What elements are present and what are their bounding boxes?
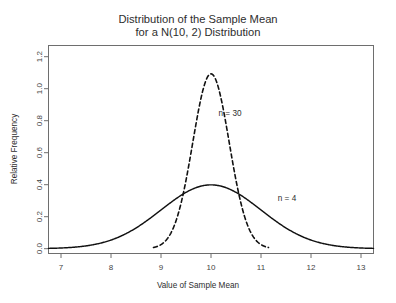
y-tick-label: 1.2 (36, 51, 45, 63)
y-tick-label: 0.0 (36, 243, 45, 255)
x-axis-title: Value of Sample Mean (157, 281, 240, 290)
x-tick-label: 10 (207, 263, 216, 272)
y-tick-label: 0.2 (36, 211, 45, 223)
plot-frame (49, 46, 374, 254)
curve-label-n-4: n = 4 (278, 194, 297, 203)
x-tick-label: 9 (159, 263, 164, 272)
curves-group (49, 74, 374, 249)
chart-title-line-2: for a N(10, 2) Distribution (136, 26, 261, 38)
x-tick-label: 11 (257, 263, 266, 272)
y-tick-label: 1.0 (36, 83, 45, 95)
curve-n-30 (154, 74, 269, 248)
distribution-plot: Distribution of the Sample Mean for a N(… (0, 0, 396, 303)
x-tick-label: 8 (109, 263, 114, 272)
y-tick-label: 0.8 (36, 115, 45, 127)
x-tick-label: 7 (59, 263, 64, 272)
chart-title-line-1: Distribution of the Sample Mean (118, 13, 277, 25)
y-axis-title: Relative Frequency (10, 113, 19, 184)
y-tick-label: 0.6 (36, 147, 45, 159)
curve-label-n-30: n = 30 (219, 109, 242, 118)
x-axis-ticks: 78910111213 (59, 254, 366, 272)
x-tick-label: 13 (357, 263, 366, 272)
chart-figure: Distribution of the Sample Mean for a N(… (0, 0, 396, 303)
y-axis-ticks: 0.00.20.40.60.81.01.2 (36, 51, 49, 255)
x-tick-label: 12 (307, 263, 316, 272)
y-tick-label: 0.4 (36, 179, 45, 191)
curve-n-4 (49, 185, 374, 249)
